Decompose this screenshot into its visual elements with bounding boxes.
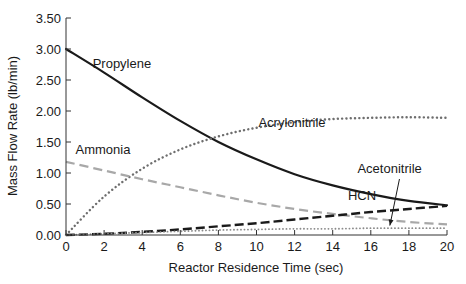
x-tick-label: 20 bbox=[440, 239, 454, 254]
mass-flow-chart: 0.000.501.001.502.002.503.003.5002468101… bbox=[0, 0, 466, 284]
x-tick-label: 16 bbox=[364, 239, 378, 254]
label-acrylonitrile: Acrylonitrile bbox=[258, 115, 325, 130]
label-ammonia: Ammonia bbox=[76, 142, 132, 157]
series-acrylonitrile-line bbox=[66, 117, 447, 235]
x-tick-label: 2 bbox=[100, 239, 107, 254]
x-tick-label: 12 bbox=[287, 239, 301, 254]
y-tick-label: 3.50 bbox=[36, 11, 61, 26]
x-tick-label: 4 bbox=[139, 239, 146, 254]
x-tick-label: 18 bbox=[402, 239, 416, 254]
x-tick-label: 0 bbox=[62, 239, 69, 254]
y-tick-label: 2.50 bbox=[36, 73, 61, 88]
y-tick-label: 3.00 bbox=[36, 42, 61, 57]
y-tick-label: 0.00 bbox=[36, 228, 61, 243]
y-tick-label: 1.00 bbox=[36, 166, 61, 181]
series-labels: PropyleneAcrylonitrileAmmoniaAcetonitril… bbox=[76, 56, 422, 226]
label-propylene: Propylene bbox=[93, 56, 152, 71]
x-tick-label: 6 bbox=[177, 239, 184, 254]
y-tick-label: 0.50 bbox=[36, 197, 61, 212]
x-axis-title: Reactor Residence Time (sec) bbox=[169, 260, 344, 275]
y-tick-label: 2.00 bbox=[36, 104, 61, 119]
label-hcn: HCN bbox=[348, 188, 376, 203]
acetonitrile-arrow bbox=[390, 179, 400, 226]
x-tick-label: 8 bbox=[215, 239, 222, 254]
arrowhead-icon bbox=[389, 219, 394, 225]
y-axis-title: Mass Flow Rate (lb/min) bbox=[5, 56, 20, 196]
x-tick-label: 10 bbox=[249, 239, 263, 254]
x-tick-label: 14 bbox=[325, 239, 339, 254]
y-tick-label: 1.50 bbox=[36, 135, 61, 150]
label-acetonitrile: Acetonitrile bbox=[357, 161, 421, 176]
